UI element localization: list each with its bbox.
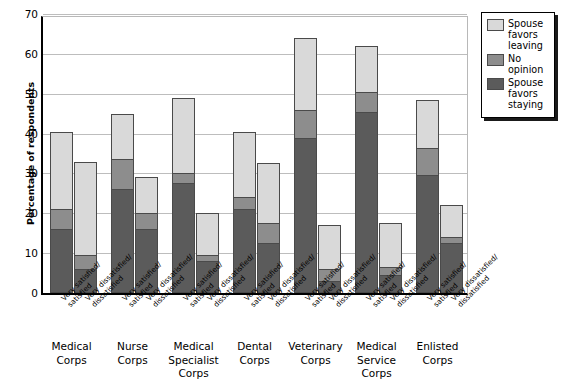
segment-no-opinion <box>233 197 256 209</box>
chart-legend: SpousefavorsleavingNoopinionSpousefavors… <box>481 12 555 118</box>
x-axis-group-label: DentalCorps <box>224 340 285 367</box>
y-axis-tick-label: 0 <box>31 287 38 299</box>
stacked-bar-chart: Percentage of respondents 01020304050607… <box>0 0 562 382</box>
segment-spouse-favors-leaving <box>50 132 73 210</box>
x-axis-group-label: MedicalCorps <box>41 340 102 367</box>
legend-item: Spousefavorsstaying <box>487 77 550 110</box>
x-axis-group-label: MedicalSpecialistCorps <box>163 340 224 381</box>
y-axis-tick-label: 60 <box>25 48 38 60</box>
segment-spouse-favors-leaving <box>294 38 317 110</box>
bars-group <box>43 17 467 293</box>
x-axis-group-label: MedicalServiceCorps <box>346 340 407 381</box>
bar <box>50 132 73 293</box>
segment-spouse-favors-leaving <box>196 213 219 255</box>
legend-label: Noopinion <box>508 53 543 75</box>
segment-no-opinion <box>50 209 73 229</box>
legend-swatch <box>487 78 504 90</box>
legend-item: Noopinion <box>487 53 550 75</box>
legend-label: Spousefavorsleaving <box>508 18 543 51</box>
y-axis-tick-label: 50 <box>25 88 38 100</box>
segment-no-opinion <box>294 110 317 138</box>
y-axis-title: Percentage of respondents <box>25 54 36 254</box>
gridline <box>43 14 467 15</box>
segment-no-opinion <box>172 173 195 183</box>
plot-area: 010203040506070 <box>41 16 468 295</box>
segment-no-opinion <box>257 223 280 243</box>
segment-spouse-favors-leaving <box>257 163 280 223</box>
x-axis-group-label: VeterinaryCorps <box>285 340 346 367</box>
segment-spouse-favors-leaving <box>440 205 463 237</box>
legend-swatch <box>487 54 504 66</box>
segment-no-opinion <box>111 159 134 189</box>
y-axis-tick-label: 20 <box>25 207 38 219</box>
segment-spouse-favors-leaving <box>111 114 134 160</box>
y-axis-tick-label: 30 <box>25 167 38 179</box>
y-axis-tick-label: 40 <box>25 128 38 140</box>
legend-swatch <box>487 19 504 31</box>
segment-no-opinion <box>135 213 158 229</box>
segment-spouse-favors-leaving <box>135 177 158 213</box>
legend-item: Spousefavorsleaving <box>487 18 550 51</box>
y-axis-tick-label: 70 <box>25 8 38 20</box>
x-axis-group-labels: MedicalCorpsNurseCorpsMedicalSpecialistC… <box>41 340 468 382</box>
x-axis-group-label: EnlistedCorps <box>407 340 468 367</box>
segment-spouse-favors-leaving <box>233 132 256 198</box>
segment-spouse-favors-staying <box>50 229 73 293</box>
segment-spouse-favors-leaving <box>74 162 97 256</box>
segment-spouse-favors-leaving <box>172 98 195 174</box>
x-axis-group-label: NurseCorps <box>102 340 163 367</box>
segment-spouse-favors-leaving <box>416 100 439 148</box>
segment-spouse-favors-leaving <box>355 46 378 92</box>
y-axis-tick-label: 10 <box>25 247 38 259</box>
legend-label: Spousefavorsstaying <box>508 77 543 110</box>
segment-no-opinion <box>355 92 378 112</box>
segment-no-opinion <box>416 148 439 176</box>
